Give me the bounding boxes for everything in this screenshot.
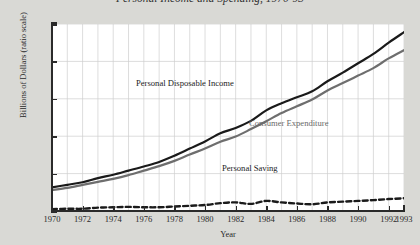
chart-svg — [52, 24, 404, 211]
series-label-income: Personal Disposable Income — [136, 78, 234, 88]
x-tick-mark — [297, 206, 298, 212]
x-tick-mark — [113, 206, 114, 212]
x-tick-mark — [389, 206, 390, 212]
x-tick-mark — [358, 206, 359, 212]
x-tick-mark — [205, 206, 206, 212]
x-tick-mark — [236, 206, 237, 212]
x-axis-label: Year — [52, 229, 404, 239]
y-tick-mark — [51, 61, 57, 63]
y-tick-mark — [51, 136, 57, 138]
series-label-consumption: Consumer Expenditure — [249, 118, 328, 128]
x-tick-mark — [404, 206, 405, 212]
chart-title-clip: Personal Income and Spending, 1970-93 — [0, 0, 420, 7]
y-axis-label: Billions of Dollars (ratio scale) — [18, 0, 28, 140]
x-tick-mark — [144, 206, 145, 212]
y-axis-line — [51, 22, 53, 213]
x-tick-mark — [174, 206, 175, 212]
series-label-saving: Personal Saving — [222, 163, 278, 173]
x-axis-line — [51, 210, 405, 212]
x-tick-mark — [266, 206, 267, 212]
y-tick-mark — [51, 24, 57, 26]
y-tick-mark — [51, 174, 57, 176]
x-tick-mark — [52, 206, 53, 212]
x-tick-mark — [327, 206, 328, 212]
x-tick-label: 1993 — [384, 214, 420, 224]
y-tick-mark — [51, 99, 57, 101]
plot-area — [52, 24, 404, 211]
x-tick-mark — [83, 206, 84, 212]
gridlines — [52, 24, 404, 211]
series-lines — [52, 32, 404, 209]
chart-title: Personal Income and Spending, 1970-93 — [0, 0, 420, 4]
series-path — [52, 198, 404, 209]
chart-root: Personal Income and Spending, 1970-93 Bi… — [0, 0, 420, 245]
